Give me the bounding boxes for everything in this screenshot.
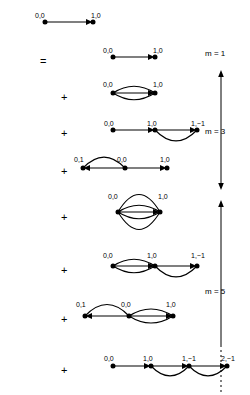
order-3-term-2-node-0 [111, 128, 116, 133]
order-5-term-4-node-2 [187, 364, 192, 369]
m3-arrow-head-bottom [218, 183, 224, 190]
order-5-term-2-node-2 [195, 264, 200, 269]
diagram-graphics [0, 0, 250, 395]
order-1-term-1-node-1 [153, 55, 158, 60]
left-hand-side-edge-node-1 [91, 20, 96, 25]
left-hand-side-edge-node-label-1: 1,0 [91, 12, 101, 19]
m5-arrow-head-top [218, 200, 224, 207]
order-5-term-3-node-label-2: 1,0 [166, 301, 176, 308]
operator-plus-2: + [61, 128, 67, 139]
order-1-term-1-node-0 [111, 55, 116, 60]
operator-plus-5: + [61, 265, 67, 276]
order-3-term-2 [111, 127, 200, 141]
order-3-term-1 [111, 86, 158, 99]
order-3-term-1-node-label-1: 1,0 [153, 81, 163, 88]
order-3-term-2-node-label-2: 1,−1 [191, 120, 205, 127]
order-3-term-1-node-1 [153, 91, 158, 96]
operator-plus-7: + [61, 365, 67, 376]
order-3-term-3-node-2 [165, 166, 170, 171]
order-3-term-2-node-1 [153, 128, 158, 133]
order-5-term-2 [111, 259, 200, 277]
order-3-term-3-node-1 [123, 166, 128, 171]
operator-plus-3: + [61, 166, 67, 177]
order-5-term-4-node-1 [149, 364, 154, 369]
order-5-term-4-node-label-0: 0,0 [104, 355, 114, 362]
order-3-term-1-node-label-0: 0,0 [103, 81, 113, 88]
operator-plus-6: + [61, 314, 67, 325]
left-hand-side-edge-node-0 [43, 20, 48, 25]
order-5-term-4-node-0 [111, 364, 116, 369]
order-5-term-1-node-1 [158, 210, 163, 215]
order-marker-1: m = 3 [205, 128, 225, 136]
order-5-term-4-node-3 [225, 364, 230, 369]
left-hand-side-edge-node-label-0: 0,0 [35, 12, 45, 19]
figure-canvas: 0,01,00,01,00,01,00,01,01,−10,10,01,00,0… [0, 0, 250, 395]
order-marker-2: m = 5 [205, 288, 225, 296]
left-hand-side-edge [43, 19, 96, 25]
order-marker-0: m = 1 [205, 50, 225, 58]
order-3-term-2-node-label-0: 0,0 [104, 120, 114, 127]
order-5-term-4-node-label-3: 2,−1 [221, 355, 235, 362]
order-5-term-4 [111, 363, 230, 376]
order-3-term-3-node-label-1: 0,0 [117, 156, 127, 163]
operator-plus-4: + [61, 212, 67, 223]
order-5-term-2-node-1 [153, 264, 158, 269]
order-1-term-1-node-label-1: 1,0 [153, 47, 163, 54]
operator-equals-0: = [40, 56, 46, 67]
order-5-term-3-node-2 [171, 314, 176, 319]
order-1-term-1-node-label-0: 0,0 [103, 47, 113, 54]
order-5-term-1-node-label-0: 0,0 [108, 193, 118, 200]
order-5-term-3-node-label-1: 0,0 [121, 301, 131, 308]
order-5-term-2-node-label-0: 0,0 [103, 252, 113, 259]
order-5-term-2-node-0 [111, 264, 116, 269]
order-5-term-1-node-label-1: 1,0 [158, 193, 168, 200]
order-3-term-3-node-label-0: 0,1 [74, 156, 84, 163]
order-1-term-1 [111, 54, 158, 60]
order-5-term-2-node-label-2: 1,−1 [191, 252, 205, 259]
m5-arrow [218, 200, 224, 392]
order-3-term-3-node-label-2: 1,0 [160, 156, 170, 163]
order-5-term-1-node-0 [116, 210, 121, 215]
order-5-term-1 [116, 195, 163, 230]
order-5-term-3-node-0 [83, 314, 88, 319]
order-3-term-3-node-0 [81, 166, 86, 171]
m3-arrow-head-top [218, 70, 224, 77]
order-5-term-3-node-1 [127, 314, 132, 319]
order-5-term-2-node-label-1: 1,0 [147, 252, 157, 259]
order-3-term-1-node-0 [111, 91, 116, 96]
order-3-term-2-node-label-1: 1,0 [147, 120, 157, 127]
order-5-term-4-node-label-2: 1,−1 [182, 355, 196, 362]
order-5-term-3-node-label-0: 0,1 [76, 301, 86, 308]
operator-plus-1: + [61, 92, 67, 103]
order-3-term-2-node-2 [195, 128, 200, 133]
order-5-term-4-node-label-1: 1,0 [143, 355, 153, 362]
